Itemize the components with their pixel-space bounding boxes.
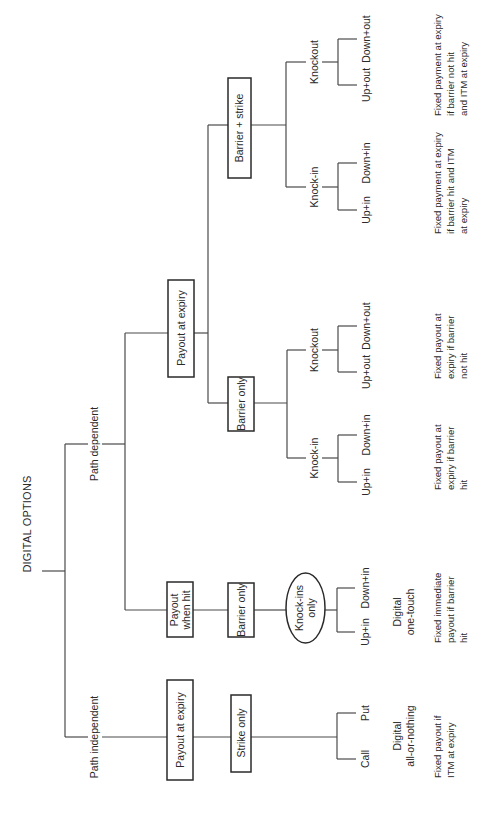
- box-label-barrier-strike: Barrier + strike: [233, 94, 245, 163]
- desc-knock-in-barrier-only-line3: hit: [458, 480, 469, 490]
- leaf-down-in-hit: Down+in: [359, 567, 371, 608]
- desc-knockout-barrier-only-line3: not hit: [458, 353, 469, 379]
- leaf-down-out-barrier-only: Down+out: [360, 302, 372, 350]
- desc-all-or-nothing-line2: ITM at expiry: [445, 722, 456, 778]
- label-knockout-barrier-only: Knockout: [308, 328, 320, 372]
- desc-one-touch-line1: Fixed immediate: [432, 573, 443, 643]
- leaf-down-in-barrier-strike: Down+in: [360, 142, 372, 183]
- desc-knock-in-barrier-only-line2: expiry if barrier: [445, 426, 456, 490]
- leaf-down-out-barrier-strike: Down+out: [360, 15, 372, 63]
- desc-knock-in-barrier-only-line1: Fixed payout at: [432, 424, 443, 490]
- box-label-payout-when-hit-line2: when hit: [180, 590, 192, 630]
- box-label-strike-only: Strike only: [235, 708, 247, 758]
- box-label-payout-at-expiry-dependent: Payout at expiry: [175, 290, 187, 366]
- desc-knockout-barrier-strike-line2: if barrier not hit: [445, 52, 456, 116]
- leaf-up-in-barrier-strike: Up+in: [360, 196, 372, 224]
- oval-label-line1: Knock-ins: [293, 585, 305, 631]
- connectors: [42, 39, 357, 759]
- product-name-all-or-nothing-line2: all-or-nothing: [404, 705, 416, 766]
- oval-label-line2: only: [305, 598, 317, 618]
- desc-all-or-nothing-line1: Fixed payout if: [432, 715, 443, 778]
- leaf-call: Call: [359, 750, 371, 768]
- box-label-payout-at-expiry-independent: Payout at expiry: [174, 692, 186, 768]
- diagram-title: DIGITAL OPTIONS: [21, 475, 33, 572]
- leaf-down-in-barrier-only: Down+in: [360, 414, 372, 455]
- product-name-one-touch-line2: one-touch: [404, 588, 416, 635]
- product-name-all-or-nothing-line1: Digital: [391, 721, 403, 750]
- label-path-independent: Path independent: [88, 696, 100, 778]
- leaf-up-out-barrier-strike: Up+out: [360, 68, 372, 102]
- desc-knock-in-barrier-strike-line3: at expiry: [458, 198, 469, 234]
- product-name-one-touch-line1: Digital: [391, 597, 403, 626]
- label-path-dependent: Path dependent: [88, 407, 100, 481]
- desc-knock-in-barrier-strike-line1: Fixed payment at expiry: [432, 132, 443, 234]
- label-knock-in-barrier-strike: Knock-in: [308, 166, 320, 207]
- desc-knock-in-barrier-strike-line2: if barrier hit and ITM: [445, 148, 456, 234]
- desc-one-touch-line2: payout if barrier: [445, 576, 456, 643]
- leaf-put: Put: [359, 705, 371, 721]
- label-knock-in-barrier-only: Knock-in: [308, 437, 320, 478]
- desc-knockout-barrier-only-line2: expiry if barrier: [445, 315, 456, 379]
- label-knockout-barrier-strike: Knockout: [308, 40, 320, 84]
- desc-knockout-barrier-only-line1: Fixed payout at: [432, 313, 443, 379]
- box-label-barrier-only-dependent: Barrier only: [235, 376, 247, 430]
- digital-options-tree: DIGITAL OPTIONS Path dependent Path inde…: [0, 0, 484, 818]
- leaf-up-in-barrier-only: Up+in: [360, 468, 372, 496]
- box-label-barrier-only-hit: Barrier only: [235, 582, 247, 636]
- leaf-up-out-barrier-only: Up+out: [360, 355, 372, 389]
- desc-knockout-barrier-strike-line1: Fixed payment at expiry: [432, 14, 443, 116]
- leaf-up-in-hit: Up+in: [359, 618, 371, 646]
- desc-knockout-barrier-strike-line3: and ITM at expiry: [458, 42, 469, 116]
- desc-one-touch-line3: hit: [458, 633, 469, 643]
- box-label-payout-when-hit-line1: Payout: [168, 594, 180, 627]
